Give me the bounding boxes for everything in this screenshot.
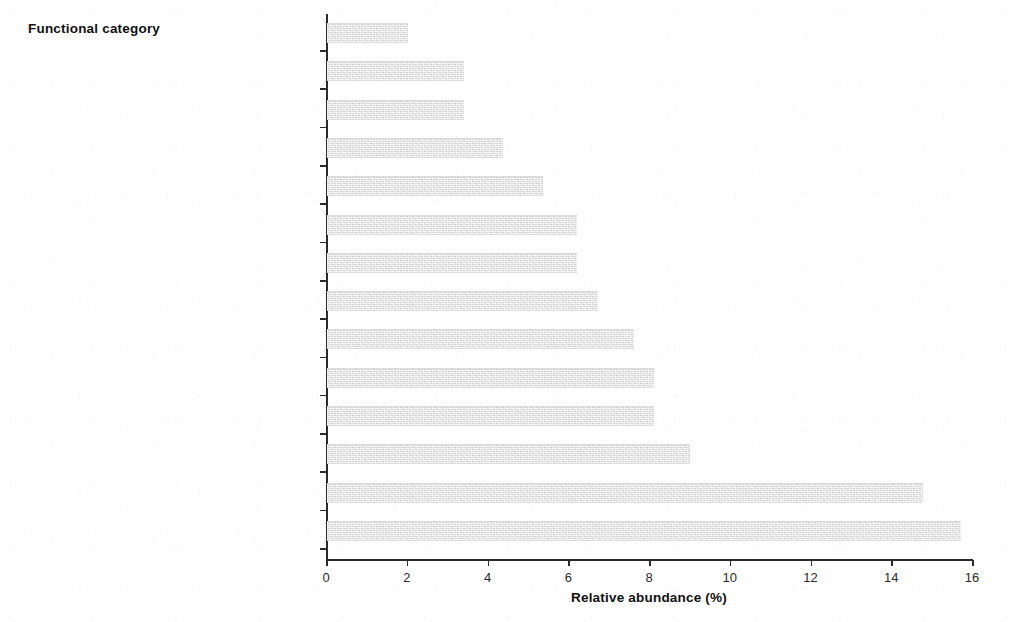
bar-fill <box>327 406 654 426</box>
x-axis-tick <box>568 560 570 566</box>
bar <box>327 253 577 271</box>
x-axis-tick <box>407 560 409 566</box>
bar <box>327 291 598 309</box>
y-axis-tick <box>320 548 326 550</box>
x-axis-tick <box>811 560 813 566</box>
x-axis-tick-label: 4 <box>468 570 508 585</box>
bar-fill <box>327 100 464 120</box>
y-axis-tick <box>320 318 326 320</box>
y-axis-tick <box>320 395 326 397</box>
bar <box>327 521 961 539</box>
bar <box>327 329 634 347</box>
bar <box>327 444 690 462</box>
x-axis-tick-label: 14 <box>871 570 911 585</box>
x-axis-title: Relative abundance (%) <box>326 590 972 605</box>
x-axis-tick-label: 0 <box>306 570 346 585</box>
x-axis-tick-label: 16 <box>952 570 992 585</box>
bar-fill <box>327 329 634 349</box>
bar-fill <box>327 138 503 158</box>
plot-area: 0246810121416 Cell fateInteraction with … <box>326 14 972 560</box>
y-axis-tick <box>320 471 326 473</box>
x-axis-tick <box>488 560 490 566</box>
bar <box>327 176 543 194</box>
y-axis-tick <box>320 357 326 359</box>
bar <box>327 483 923 501</box>
bar-fill <box>327 483 923 503</box>
x-axis-tick <box>891 560 893 566</box>
bar-fill <box>327 176 543 196</box>
x-axis-tick <box>326 560 328 566</box>
bar-fill <box>327 521 961 541</box>
bar-fill <box>327 215 577 235</box>
y-axis-title: Functional category <box>28 21 160 36</box>
y-axis-tick <box>320 203 326 205</box>
bar-fill <box>327 253 577 273</box>
y-axis-tick <box>320 280 326 282</box>
x-axis-tick-label: 2 <box>387 570 427 585</box>
x-axis-tick-label: 10 <box>710 570 750 585</box>
bar-fill <box>327 23 408 43</box>
y-axis-tick <box>320 50 326 52</box>
bar <box>327 138 503 156</box>
y-axis-tick <box>320 510 326 512</box>
bar <box>327 23 408 41</box>
y-axis-line <box>326 14 328 560</box>
bar <box>327 215 577 233</box>
y-axis-tick <box>320 127 326 129</box>
bar <box>327 61 464 79</box>
y-axis-tick <box>320 88 326 90</box>
x-axis-tick-label: 6 <box>548 570 588 585</box>
bar <box>327 406 654 424</box>
x-axis-tick <box>730 560 732 566</box>
bar-chart-figure: Functional category 0246810121416 Cell f… <box>0 0 1009 622</box>
y-axis-tick <box>320 165 326 167</box>
x-axis-tick <box>649 560 651 566</box>
bar <box>327 100 464 118</box>
x-axis-tick-label: 8 <box>629 570 669 585</box>
x-axis-tick-label: 12 <box>791 570 831 585</box>
bar-fill <box>327 291 598 311</box>
bar-fill <box>327 61 464 81</box>
x-axis-tick <box>972 560 974 566</box>
y-axis-tick <box>320 242 326 244</box>
bar-fill <box>327 368 654 388</box>
bar-fill <box>327 444 690 464</box>
bar <box>327 368 654 386</box>
y-axis-tick <box>320 433 326 435</box>
